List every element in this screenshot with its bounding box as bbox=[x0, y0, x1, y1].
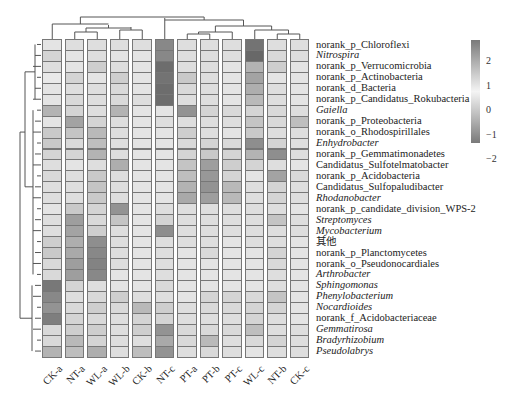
heatmap-cell bbox=[290, 346, 310, 358]
row-label: norank_p_Candidatus_Rokubacteria bbox=[316, 93, 469, 104]
row-label: norank_p_Planctomycetes bbox=[316, 247, 427, 258]
row-label: Bradyrhizobium bbox=[316, 334, 384, 345]
row-label: norank_p_Proteobacteria bbox=[316, 115, 422, 126]
row-label: norank_o_Rhodospirillales bbox=[316, 126, 430, 137]
row-label: Gaiella bbox=[316, 104, 348, 115]
heatmap-cell bbox=[87, 346, 107, 358]
color-scale-tick: 2 bbox=[486, 55, 491, 66]
row-label: Phenylobacterium bbox=[316, 290, 393, 301]
row-label: Candidatus_Sulfotelmatobacter bbox=[316, 159, 448, 170]
color-scale-tick: −2 bbox=[486, 153, 497, 164]
heatmap-cell bbox=[110, 346, 130, 358]
row-label: Mycobacterium bbox=[316, 225, 382, 236]
row-label: Gemmatirosa bbox=[316, 323, 373, 334]
row-label: Nocardioides bbox=[316, 301, 372, 312]
row-label: norank_p_candidate_division_WPS-2 bbox=[316, 203, 476, 214]
color-scale-tick: −1 bbox=[486, 129, 497, 140]
row-label: Pseudolabrys bbox=[316, 345, 373, 356]
heatmap-cell bbox=[222, 346, 242, 358]
row-label: norank_p_Gemmatimonadetes bbox=[316, 148, 445, 159]
heatmap-cell bbox=[42, 346, 62, 358]
row-label: norank_d_Bacteria bbox=[316, 82, 396, 93]
row-label: Rhodanobacter bbox=[316, 192, 381, 203]
heatmap-cell bbox=[177, 346, 197, 358]
heatmap-cell bbox=[132, 346, 152, 358]
heatmap-cell bbox=[155, 346, 175, 358]
row-label: norank_p_Actinobacteria bbox=[316, 71, 423, 82]
heatmap-chart: norank_p_ChloroflexiNitrospiranorank_p_V… bbox=[0, 0, 509, 393]
heatmap-cell bbox=[267, 346, 287, 358]
row-label: Arthrobacter bbox=[316, 268, 370, 279]
row-label: norank_f_Acidobacteriaceae bbox=[316, 312, 437, 323]
row-label: Nitrospira bbox=[316, 49, 359, 60]
row-label: Streptomyces bbox=[316, 214, 372, 225]
row-label: Sphingomonas bbox=[316, 279, 378, 290]
color-scale-tick: 0 bbox=[486, 104, 491, 115]
row-label: norank_o_Pseudonocardiales bbox=[316, 258, 439, 269]
heatmap-cell bbox=[65, 346, 85, 358]
row-label: Enhydrobacter bbox=[316, 137, 379, 148]
row-label: 其他 bbox=[316, 236, 336, 247]
row-label: norank_p_Verrucomicrobia bbox=[316, 60, 431, 71]
row-label: norank_p_Chloroflexi bbox=[316, 39, 409, 50]
heatmap-cell bbox=[200, 346, 220, 358]
row-label: Candidatus_Sulfopaludibacter bbox=[316, 181, 443, 192]
color-scale-bar bbox=[471, 40, 480, 143]
row-label: norank_p_Acidobacteria bbox=[316, 170, 420, 181]
color-scale-tick: 1 bbox=[486, 80, 491, 91]
heatmap-cell bbox=[245, 346, 265, 358]
